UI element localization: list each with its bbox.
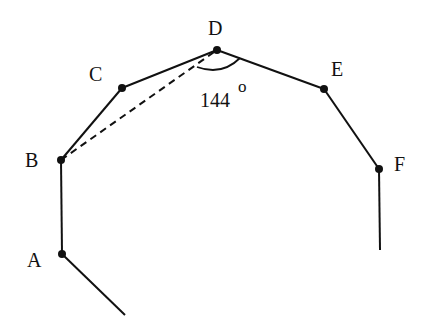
vertex-c-dot [118,84,126,92]
vertex-b-dot [57,156,65,164]
polygon-diagram: A B C D E F 144 o [0,0,435,334]
vertex-label-b: B [25,149,38,171]
edge-ab [61,160,62,254]
vertex-label-f: F [394,153,405,175]
vertex-f-dot [375,165,383,173]
vertex-label-c: C [89,63,102,85]
edge-ef [324,89,379,169]
edge-de [217,50,324,89]
vertex-e-dot [320,85,328,93]
angle-degree-symbol: o [238,77,247,96]
vertex-a-dot [58,250,66,258]
extension-a [62,254,125,315]
extension-f [379,169,380,250]
angle-value-label: 144 [200,89,230,111]
vertex-d-dot [213,46,221,54]
vertex-label-d: D [208,17,222,39]
vertex-label-a: A [27,249,42,271]
diagonal-bd [61,50,217,160]
vertex-label-e: E [331,58,343,80]
